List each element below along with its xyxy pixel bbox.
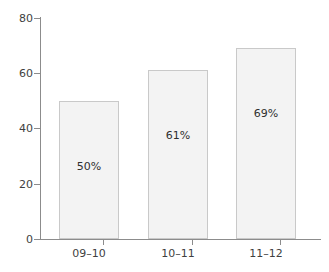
y-tick-mark-20: [34, 184, 40, 185]
y-tick-mark-0: [34, 239, 40, 240]
x-tick-mark-1: [192, 240, 193, 245]
bar-value-label-11-12: 69%: [221, 108, 311, 120]
bar-value-label-10-11: 61%: [133, 130, 223, 142]
x-axis-line: [40, 239, 321, 240]
x-tick-label-10-11: 10–11: [133, 248, 223, 260]
x-tick-label-09-10: 09–10: [44, 248, 134, 260]
y-tick-mark-80: [34, 18, 40, 19]
y-axis-line: [40, 17, 41, 240]
x-tick-mark-2: [280, 240, 281, 245]
bar-11-12[interactable]: [236, 48, 296, 239]
x-tick-label-11-12: 11–12: [221, 248, 311, 260]
y-tick-label-80: 80: [0, 13, 33, 24]
y-tick-label-40: 40: [0, 123, 33, 134]
bar-chart: 0 20 40 60 80 50% 61% 69% 09–10 10–11 11…: [0, 0, 329, 272]
bar-value-label-09-10: 50%: [44, 161, 134, 173]
y-tick-label-20: 20: [0, 179, 33, 190]
y-tick-label-0: 0: [0, 234, 33, 245]
y-tick-mark-60: [34, 73, 40, 74]
x-tick-mark-0: [103, 240, 104, 245]
y-tick-mark-40: [34, 128, 40, 129]
bar-10-11[interactable]: [148, 70, 208, 239]
y-tick-label-60: 60: [0, 68, 33, 79]
